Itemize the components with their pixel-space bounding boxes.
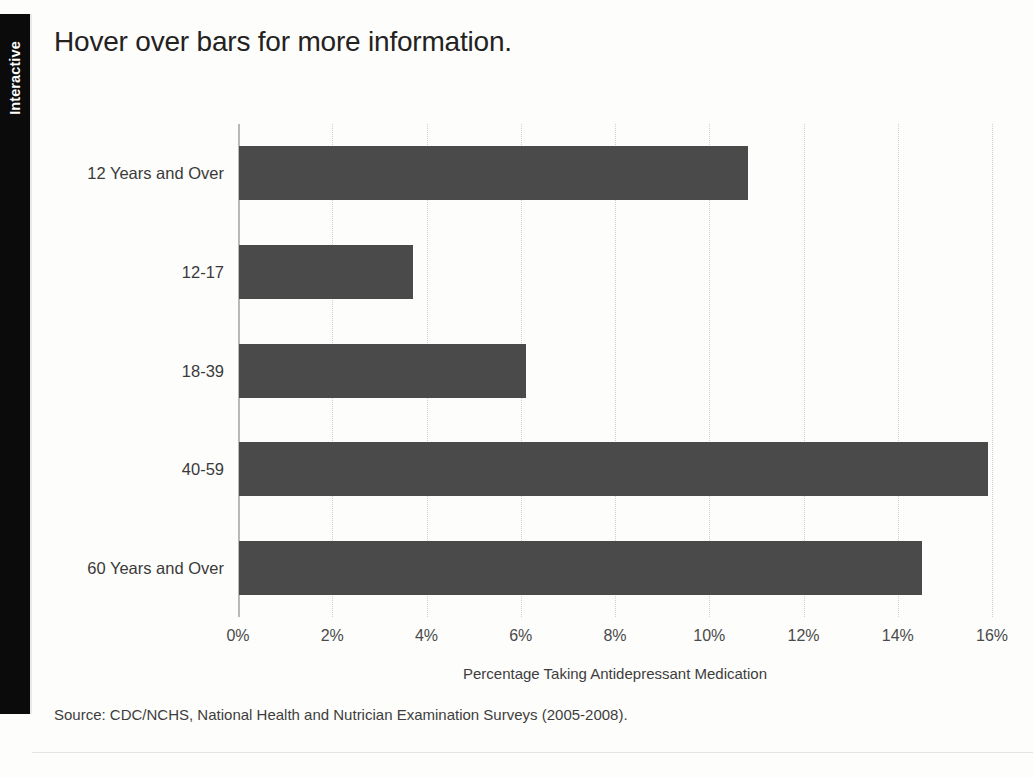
x-tick-label: 16%	[957, 627, 1027, 645]
x-tick-label: 6%	[486, 627, 556, 645]
bar[interactable]	[239, 344, 526, 398]
bottom-divider	[32, 752, 1033, 753]
y-axis-label: 18-39	[0, 344, 224, 398]
plot-area: 12 Years and Over12-1718-3940-5960 Years…	[238, 124, 992, 617]
x-axis-label: Percentage Taking Antidepressant Medicat…	[238, 665, 992, 682]
gridline-16%	[992, 124, 994, 617]
x-tick-label: 8%	[580, 627, 650, 645]
x-tick-label: 10%	[674, 627, 744, 645]
source-note: Source: CDC/NCHS, National Health and Nu…	[54, 706, 628, 723]
bar[interactable]	[239, 146, 748, 200]
bar[interactable]	[239, 245, 413, 299]
x-tick-label: 0%	[203, 627, 273, 645]
y-axis-label: 40-59	[0, 442, 224, 496]
interactive-tab-label: Interactive	[7, 23, 23, 133]
chart-title: Hover over bars for more information.	[54, 26, 512, 58]
y-axis-label: 12-17	[0, 245, 224, 299]
bar[interactable]	[239, 442, 988, 496]
x-tick-label: 4%	[392, 627, 462, 645]
chart-card: Hover over bars for more information. 12…	[32, 0, 1033, 778]
x-tick-label: 2%	[297, 627, 367, 645]
x-tick-label: 12%	[769, 627, 839, 645]
y-axis-label: 60 Years and Over	[0, 541, 224, 595]
x-tick-label: 14%	[863, 627, 933, 645]
interactive-chart-page: Interactive Hover over bars for more inf…	[0, 0, 1033, 778]
bar[interactable]	[239, 541, 922, 595]
y-axis-label: 12 Years and Over	[0, 146, 224, 200]
